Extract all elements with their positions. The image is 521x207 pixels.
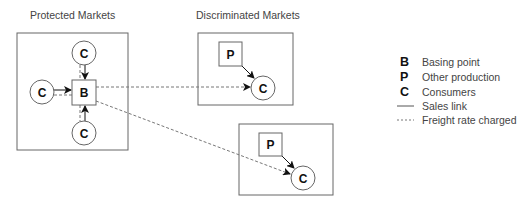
legend-key-c: C bbox=[400, 85, 409, 99]
legend: B Basing point P Other production C Cons… bbox=[397, 55, 517, 126]
basing-point-label: B bbox=[80, 86, 89, 100]
legend-label-consumers: Consumers bbox=[422, 86, 476, 98]
consumer-label: C bbox=[80, 127, 89, 141]
consumer-label: C bbox=[299, 172, 308, 186]
consumer-label: C bbox=[80, 47, 89, 61]
legend-label-sales: Sales link bbox=[422, 100, 468, 112]
legend-label-production: Other production bbox=[422, 71, 500, 83]
production-label: P bbox=[226, 48, 234, 62]
consumer-label: C bbox=[38, 86, 47, 100]
consumer-label: C bbox=[259, 82, 268, 96]
production-label: P bbox=[266, 138, 274, 152]
legend-label-basing: Basing point bbox=[422, 56, 480, 68]
discriminated-markets-title: Discriminated Markets bbox=[196, 9, 300, 21]
legend-label-freight: Freight rate charged bbox=[422, 114, 517, 126]
legend-key-p: P bbox=[400, 70, 408, 84]
protected-markets-title: Protected Markets bbox=[30, 9, 115, 21]
basing-point-diagram: Protected Markets Discriminated Markets … bbox=[0, 0, 521, 207]
legend-key-b: B bbox=[400, 55, 409, 69]
